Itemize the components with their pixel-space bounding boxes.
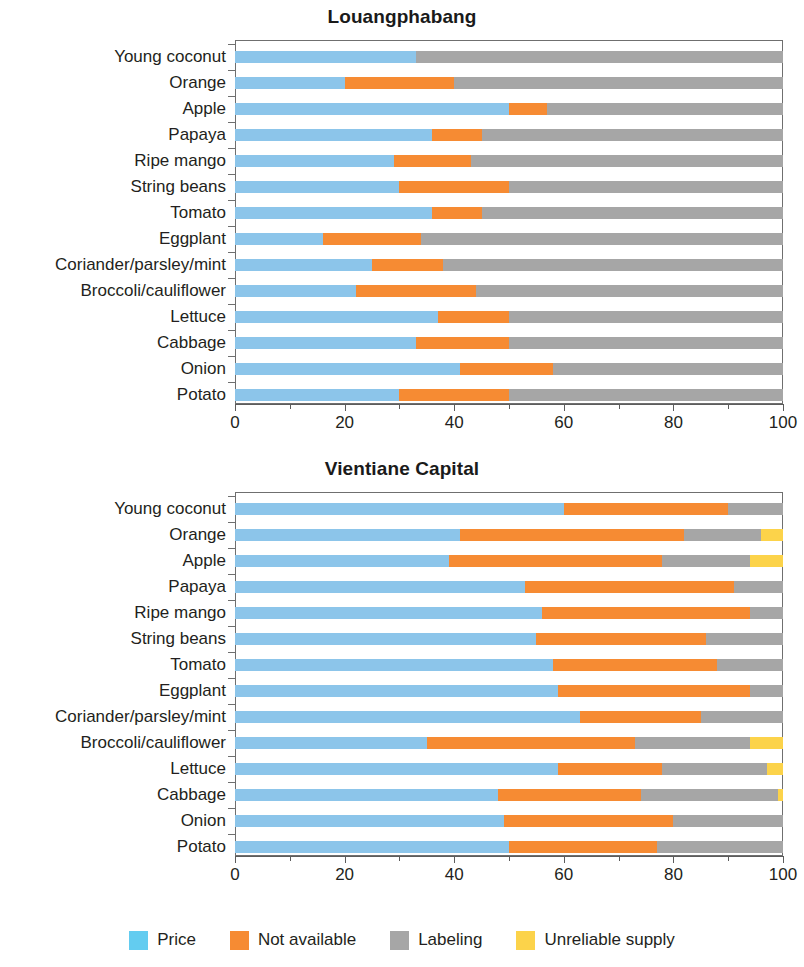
legend-swatch — [230, 931, 249, 950]
bar-segment-price — [235, 51, 416, 63]
y-axis-tick — [228, 548, 236, 549]
y-axis-tick — [228, 522, 236, 523]
x-axis-major-tick — [783, 404, 784, 411]
x-axis-tick-label: 80 — [664, 865, 683, 885]
bar-segment-labeling — [673, 815, 783, 827]
bar-segment-price — [235, 607, 542, 619]
x-axis-tick-label: 0 — [230, 413, 239, 433]
bar-row: Ripe mango — [0, 148, 804, 174]
category-label: Apple — [0, 100, 226, 118]
category-label: Broccoli/cauliflower — [0, 734, 226, 752]
x-axis-minor-tick — [509, 404, 510, 409]
bar-segment-price — [235, 77, 345, 89]
x-axis-major-tick — [673, 856, 674, 863]
y-axis-tick — [228, 782, 236, 783]
category-label: Coriander/parsley/mint — [0, 256, 226, 274]
legend-item: Price — [129, 930, 196, 950]
bar-row: Apple — [0, 96, 804, 122]
y-axis-tick — [228, 356, 236, 357]
bar-segment-labeling — [482, 207, 783, 219]
bar-segment-not-available — [536, 633, 706, 645]
category-label: Apple — [0, 552, 226, 570]
x-axis-minor-tick — [399, 856, 400, 861]
stacked-bar — [235, 503, 783, 515]
y-axis-tick — [228, 200, 236, 201]
legend-label: Price — [157, 930, 196, 950]
y-axis-tick — [228, 226, 236, 227]
category-label: Cabbage — [0, 334, 226, 352]
stacked-bar — [235, 789, 783, 801]
category-label: Tomato — [0, 656, 226, 674]
y-axis-tick — [228, 730, 236, 731]
bar-segment-not-available — [525, 581, 733, 593]
y-axis-tick — [228, 278, 236, 279]
bar-segment-price — [235, 529, 460, 541]
chart-title-1: Louangphabang — [0, 0, 804, 28]
y-axis-tick — [228, 252, 236, 253]
x-axis-major-tick — [454, 856, 455, 863]
bar-segment-labeling — [553, 363, 783, 375]
stacked-bar — [235, 259, 783, 271]
bar-segment-labeling — [443, 259, 783, 271]
legend-item: Labeling — [390, 930, 482, 950]
legend-item: Not available — [230, 930, 356, 950]
bar-segment-price — [235, 103, 509, 115]
y-axis-tick — [228, 600, 236, 601]
x-axis-minor-tick — [728, 404, 729, 409]
category-label: Coriander/parsley/mint — [0, 708, 226, 726]
y-axis-tick — [228, 808, 236, 809]
x-axis-minor-tick — [728, 856, 729, 861]
bar-segment-unreliable-supply — [778, 789, 783, 801]
bar-segment-labeling — [635, 737, 750, 749]
bar-segment-labeling — [454, 77, 783, 89]
bar-segment-price — [235, 711, 580, 723]
legend-label: Not available — [258, 930, 356, 950]
category-label: Orange — [0, 526, 226, 544]
stacked-bar — [235, 555, 783, 567]
category-label: Onion — [0, 812, 226, 830]
bar-segment-not-available — [427, 737, 635, 749]
bar-segment-price — [235, 659, 553, 671]
category-label: Potato — [0, 838, 226, 856]
bar-row: Orange — [0, 522, 804, 548]
bar-row: Young coconut — [0, 496, 804, 522]
x-axis-tick-label: 100 — [769, 865, 797, 885]
x-axis-major-tick — [783, 856, 784, 863]
stacked-bar — [235, 363, 783, 375]
bar-segment-unreliable-supply — [761, 529, 783, 541]
bar-segment-not-available — [432, 129, 481, 141]
bar-segment-labeling — [662, 763, 766, 775]
bar-segment-not-available — [356, 285, 477, 297]
bar-segment-not-available — [416, 337, 509, 349]
bar-segment-price — [235, 311, 438, 323]
stacked-bar — [235, 207, 783, 219]
bar-row: Orange — [0, 70, 804, 96]
bar-segment-not-available — [438, 311, 509, 323]
x-axis-major-tick — [345, 404, 346, 411]
bar-segment-unreliable-supply — [750, 737, 783, 749]
category-label: Eggplant — [0, 230, 226, 248]
bar-segment-not-available — [372, 259, 443, 271]
bar-segment-price — [235, 555, 449, 567]
stacked-bar — [235, 607, 783, 619]
bar-row: Coriander/parsley/mint — [0, 704, 804, 730]
bar-segment-not-available — [558, 763, 662, 775]
category-label: String beans — [0, 630, 226, 648]
y-axis-tick — [228, 174, 236, 175]
x-axis-tick-label: 80 — [664, 413, 683, 433]
x-axis-major-tick — [673, 404, 674, 411]
stacked-bar — [235, 103, 783, 115]
stacked-bar — [235, 633, 783, 645]
category-label: Eggplant — [0, 682, 226, 700]
chart-panel-vientiane-capital: Vientiane Capital Young coconutOrangeApp… — [0, 458, 804, 888]
bar-segment-unreliable-supply — [767, 763, 783, 775]
stacked-bar — [235, 581, 783, 593]
bar-row: Onion — [0, 356, 804, 382]
x-axis-2: 020406080100 — [0, 856, 804, 890]
y-axis-tick — [228, 44, 236, 45]
x-axis-1: 020406080100 — [0, 404, 804, 438]
x-axis-tick-label: 40 — [445, 413, 464, 433]
x-axis-major-tick — [235, 856, 236, 863]
bar-segment-price — [235, 841, 509, 853]
bar-segment-not-available — [509, 841, 657, 853]
